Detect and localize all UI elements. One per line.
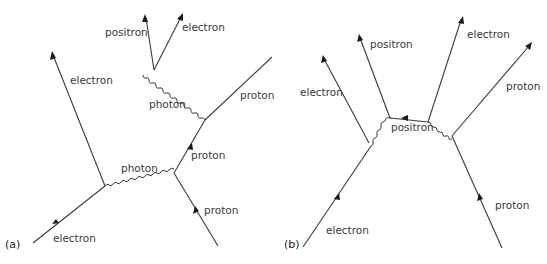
panel-b: (b) electron electron positron positron … <box>284 16 540 251</box>
a-label-intermediate-proton: proton <box>191 149 225 161</box>
b-incoming-proton-line <box>452 136 502 248</box>
b-label-outgoing-electron: electron <box>300 86 343 98</box>
b-pair-electron-arrow-icon <box>458 16 464 24</box>
a-outgoing-electron-arrow-icon <box>50 51 56 60</box>
b-positron-arrow-icon <box>357 34 363 42</box>
b-outgoing-electron-line <box>324 59 369 143</box>
b-pair-electron-line <box>428 20 461 122</box>
panel-label-a: (a) <box>5 238 20 251</box>
a-label-pair-electron: electron <box>182 21 225 33</box>
a-label-positron: positron <box>105 26 148 38</box>
a-label-incoming-proton: proton <box>204 204 238 216</box>
b-label-internal-positron: positron <box>391 121 434 133</box>
a-positron-arrow-icon <box>142 14 148 22</box>
b-photon-1-wave <box>371 118 391 146</box>
b-label-positron: positron <box>370 38 413 50</box>
a-label-photon-2: photon <box>149 98 186 110</box>
b-label-incoming-proton: proton <box>495 199 529 211</box>
a-label-photon-1: photon <box>121 162 158 174</box>
panel-a: (a) electron electron photon proton prot… <box>5 13 274 251</box>
a-pair-electron-arrow-icon <box>177 13 183 21</box>
b-positron-line <box>360 38 390 118</box>
b-incoming-electron-arrow-icon <box>334 193 340 200</box>
b-label-pair-electron: electron <box>467 28 510 40</box>
a-label-outgoing-electron: electron <box>70 74 113 86</box>
a-pair-electron-line <box>154 17 181 70</box>
b-label-incoming-electron: electron <box>326 224 369 236</box>
b-label-outgoing-proton: proton <box>506 80 540 92</box>
panel-label-b: (b) <box>284 238 300 251</box>
feynman-diagram: (a) electron electron photon proton prot… <box>0 0 547 264</box>
a-label-incoming-electron: electron <box>53 232 96 244</box>
a-label-outgoing-proton: proton <box>240 89 274 101</box>
